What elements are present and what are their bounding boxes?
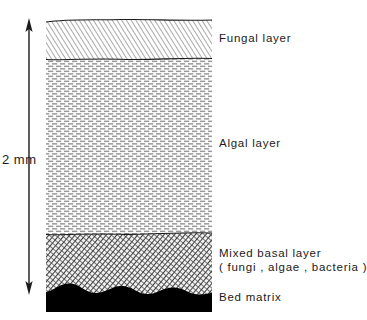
- label-mixed-basal-layer: Mixed basal layer ( fungi , algae , bact…: [219, 246, 367, 274]
- label-algal-layer: Algal layer: [219, 136, 281, 150]
- layer-algal: [46, 58, 212, 234]
- label-mixed-basal-title: Mixed basal layer: [219, 246, 367, 260]
- label-bed-matrix: Bed matrix: [219, 290, 281, 304]
- label-fungal-layer: Fungal layer: [219, 31, 291, 45]
- layer-fungal: [46, 19, 212, 59]
- label-mixed-basal-subtitle: ( fungi , algae , bacteria ): [219, 260, 367, 274]
